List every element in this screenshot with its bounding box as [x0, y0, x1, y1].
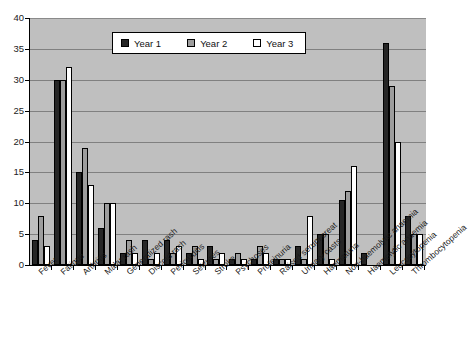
legend-item-label: Year 2: [200, 38, 227, 49]
y-axis-tick-label: 35: [13, 44, 24, 54]
y-axis-tick-label: 20: [13, 137, 24, 147]
bar-year-3: [66, 67, 72, 265]
bar-group: [52, 18, 74, 265]
bar-group: [30, 18, 52, 265]
bar-group: [271, 18, 293, 265]
x-axis-labels: FeverFatigueArthritisMalar rashGeneraliz…: [30, 270, 425, 356]
year3-swatch: [253, 39, 261, 47]
legend-item: Year 3: [253, 38, 293, 49]
y-axis-tick-label: 5: [19, 229, 24, 239]
bar-group: [184, 18, 206, 265]
bar-group: [74, 18, 96, 265]
bar-year-3: [88, 185, 94, 265]
bar-group: [96, 18, 118, 265]
y-axis-tick-label: 10: [13, 199, 24, 209]
y-axis-tick-label: 0: [19, 260, 24, 270]
bar-group: [140, 18, 162, 265]
legend-item: Year 2: [187, 38, 227, 49]
y-axis: 0510152025303540: [0, 18, 29, 266]
bar-group: [337, 18, 359, 265]
legend-item-label: Year 1: [134, 38, 161, 49]
bar-group: [293, 18, 315, 265]
chart-legend: Year 1Year 2Year 3: [112, 32, 306, 54]
bar-series-container: [30, 18, 425, 265]
bar-group: [206, 18, 228, 265]
year2-swatch: [187, 39, 195, 47]
y-axis-tick-label: 25: [13, 106, 24, 116]
bar-group: [249, 18, 271, 265]
y-axis-tick-label: 15: [13, 168, 24, 178]
bar-group: [359, 18, 381, 265]
legend-item: Year 1: [121, 38, 161, 49]
bar-group: [118, 18, 140, 265]
bar-year-3: [110, 203, 116, 265]
y-axis-tick-label: 40: [13, 13, 24, 23]
bar-group: [227, 18, 249, 265]
legend-item-label: Year 3: [266, 38, 293, 49]
year1-swatch: [121, 39, 129, 47]
y-axis-tick-label: 30: [13, 75, 24, 85]
